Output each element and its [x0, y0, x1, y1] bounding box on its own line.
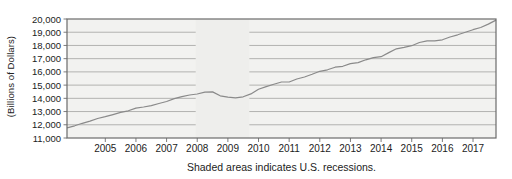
plot-background: [67, 19, 496, 138]
y-tick-label: 13,000: [21, 106, 61, 117]
y-tick-label: 19,000: [21, 27, 61, 38]
y-tick-label: 17,000: [21, 53, 61, 64]
y-tick-label: 18,000: [21, 40, 61, 51]
y-axis-title: (Billions of Dollars): [5, 21, 16, 133]
y-tick-label: 20,000: [21, 14, 61, 25]
y-tick-label: 12,000: [21, 119, 61, 130]
y-tick-label: 15,000: [21, 80, 61, 91]
recession-caption: Shaded areas indicates U.S. recessions.: [67, 161, 496, 173]
y-tick-label: 14,000: [21, 93, 61, 104]
x-tick-label: 2017: [453, 143, 493, 155]
y-tick-label: 16,000: [21, 66, 61, 77]
gdp-recessions-chart-figure: (Billions of Dollars) 20,00019,00018,000…: [0, 0, 512, 179]
y-tick-label: 11,000: [21, 133, 61, 144]
recession-shaded-area: [196, 19, 250, 138]
